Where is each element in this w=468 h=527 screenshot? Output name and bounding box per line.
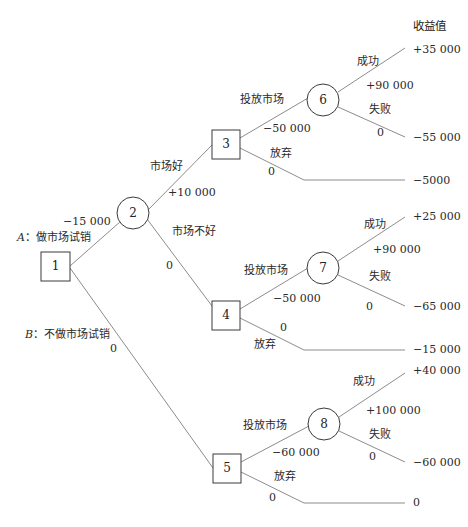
n5-invest-cost: −60 000	[272, 446, 320, 459]
payoff-n3-abandon: −5000	[413, 174, 450, 187]
n7-fail-label: 失败	[369, 270, 391, 283]
payoff-n4-abandon: −15 000	[413, 343, 461, 356]
market-good-value: +10 000	[168, 186, 216, 199]
n3-abandon-value: 0	[268, 165, 275, 178]
n6-fail-label: 失败	[369, 103, 391, 116]
n3-abandon-label: 放弃	[270, 147, 292, 160]
branch-b-text: ：不做市场试销	[33, 328, 110, 341]
payoff-n8-fail: −60 000	[413, 456, 461, 469]
branch-a-text: ：做市场试销	[25, 231, 91, 244]
n6-success-value: +90 000	[366, 79, 414, 92]
branch-a-prefix: A	[17, 231, 25, 244]
n8-success-value: +100 000	[366, 404, 421, 417]
n8-success-label: 成功	[353, 375, 375, 388]
n8-fail-label: 失败	[369, 428, 391, 441]
payoff-n6-fail: −55 000	[413, 131, 461, 144]
node-5-label: 5	[213, 461, 241, 475]
branch-b-label: B：不做市场试销	[25, 328, 110, 341]
n8-fail-value: 0	[369, 450, 376, 463]
payoff-n7-fail: −65 000	[413, 300, 461, 313]
n7-success-value: +90 000	[373, 243, 421, 256]
market-good-label: 市场好	[150, 160, 183, 173]
n4-abandon-label: 放弃	[254, 338, 276, 351]
payoff-column-title: 收益值	[413, 17, 446, 33]
n3-invest-label: 投放市场	[240, 93, 284, 106]
branch-b-prefix: B	[25, 328, 33, 341]
node-1-label: 1	[41, 259, 70, 273]
n3-invest-cost: −50 000	[263, 122, 311, 135]
payoff-n5-abandon: 0	[413, 496, 420, 509]
node-4-label: 4	[212, 308, 240, 322]
n7-fail-value: 0	[366, 300, 373, 313]
n6-success-label: 成功	[357, 55, 379, 68]
payoff-n8-success: +40 000	[413, 364, 461, 377]
branch-a-cost: −15 000	[63, 215, 111, 228]
branch-b-value: 0	[110, 342, 117, 355]
market-bad-label: 市场不好	[172, 225, 216, 238]
n5-invest-label: 投放市场	[243, 419, 287, 432]
branch-a-label: A：做市场试销	[17, 231, 91, 244]
node-8-label: 8	[308, 417, 340, 431]
n4-invest-label: 投放市场	[244, 264, 288, 277]
n5-abandon-label: 放弃	[274, 470, 296, 483]
payoff-n7-success: +25 000	[413, 210, 461, 223]
market-bad-value: 0	[166, 259, 173, 272]
n4-invest-cost: −50 000	[273, 292, 321, 305]
n4-abandon-value: 0	[280, 321, 287, 334]
node-6-label: 6	[307, 93, 339, 107]
n7-success-label: 成功	[364, 218, 386, 231]
n5-abandon-value: 0	[269, 491, 276, 504]
node-3-label: 3	[212, 137, 240, 151]
payoff-n6-success: +35 000	[413, 43, 461, 56]
node-2-label: 2	[117, 206, 149, 220]
node-7-label: 7	[307, 261, 339, 275]
n6-fail-value: 0	[377, 126, 384, 139]
